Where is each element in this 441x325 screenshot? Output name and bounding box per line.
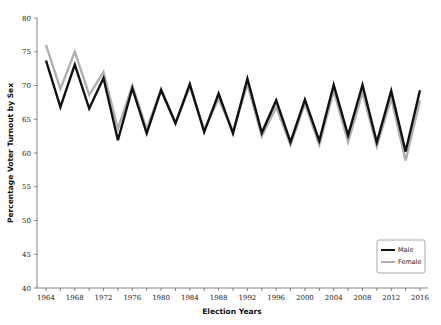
x-tick-label: 2000	[296, 294, 314, 302]
x-axis-title: Election Years	[202, 307, 262, 316]
voter-turnout-chart: 404550556065707580 196419681972197619801…	[0, 0, 441, 325]
y-tick-label: 70	[22, 82, 31, 90]
legend-label-male: Male	[398, 246, 413, 254]
y-tick-label: 75	[22, 48, 31, 56]
y-tick-label: 65	[22, 116, 31, 124]
x-tick-label: 1984	[181, 294, 199, 302]
y-axis-title: Percentage Voter Turnout by Sex	[6, 83, 15, 223]
legend-label-female: Female	[398, 258, 422, 266]
legend-box	[377, 240, 425, 273]
x-tick-label: 2012	[382, 294, 400, 302]
y-tick-label: 50	[22, 217, 31, 225]
series-line-female	[46, 45, 420, 160]
y-ticks: 404550556065707580	[22, 15, 37, 293]
x-ticks: 1964196819721976198019841988199219962000…	[37, 288, 429, 302]
x-tick-label: 1992	[238, 294, 256, 302]
x-tick-label: 1988	[210, 294, 228, 302]
x-tick-label: 1976	[123, 294, 141, 302]
y-tick-label: 55	[22, 183, 31, 191]
plot-lines	[46, 45, 420, 160]
x-tick-label: 1996	[267, 294, 285, 302]
axes: 404550556065707580 196419681972197619801…	[22, 15, 429, 303]
legend: MaleFemale	[377, 240, 425, 273]
x-tick-label: 2004	[325, 294, 343, 302]
x-tick-label: 1972	[95, 294, 113, 302]
y-tick-label: 40	[22, 285, 31, 293]
y-tick-label: 80	[22, 15, 31, 23]
x-tick-label: 1964	[37, 294, 55, 302]
x-tick-label: 2016	[411, 294, 429, 302]
x-tick-label: 2008	[354, 294, 372, 302]
x-tick-label: 1968	[66, 294, 84, 302]
y-tick-label: 60	[22, 150, 31, 158]
x-tick-label: 1980	[152, 294, 170, 302]
y-tick-label: 45	[22, 251, 31, 259]
